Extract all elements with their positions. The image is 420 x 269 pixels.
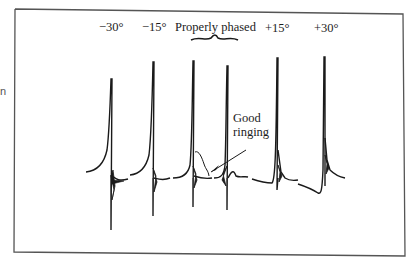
figure-frame [0, 0, 420, 269]
label-minus15: −15° [142, 20, 167, 34]
trace-minus30 [86, 79, 128, 230]
label-minus30: −30° [99, 20, 124, 34]
brace [191, 35, 238, 40]
label-plus15: +15° [265, 21, 290, 35]
figure: n −30° −15° Properly phased +15° +30° Go… [0, 0, 420, 269]
label-plus30: +30° [314, 21, 339, 35]
trace-plus30 [298, 57, 345, 193]
cropped-text-fragment: n [0, 85, 6, 97]
annotation-arrow [211, 150, 246, 172]
annotation-good-ringing: Good ringing [233, 111, 269, 139]
trace-minus15 [130, 62, 170, 216]
annotation-line-1: Good [233, 111, 269, 125]
label-properly-phased: Properly phased [175, 20, 256, 34]
annotation-line-2: ringing [233, 125, 269, 139]
